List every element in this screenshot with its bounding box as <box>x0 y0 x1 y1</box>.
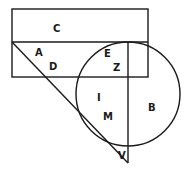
label-v: V <box>118 150 126 161</box>
label-d: D <box>49 61 57 72</box>
triangle-hypotenuse <box>12 42 128 163</box>
label-e: E <box>104 48 111 59</box>
label-b: B <box>148 102 156 113</box>
label-i: I <box>97 92 101 103</box>
label-c: C <box>53 23 60 34</box>
region-diagram: C A D E Z I M B V <box>0 0 185 180</box>
label-z: Z <box>113 62 120 73</box>
label-m: M <box>103 111 113 122</box>
label-a: A <box>35 47 43 58</box>
